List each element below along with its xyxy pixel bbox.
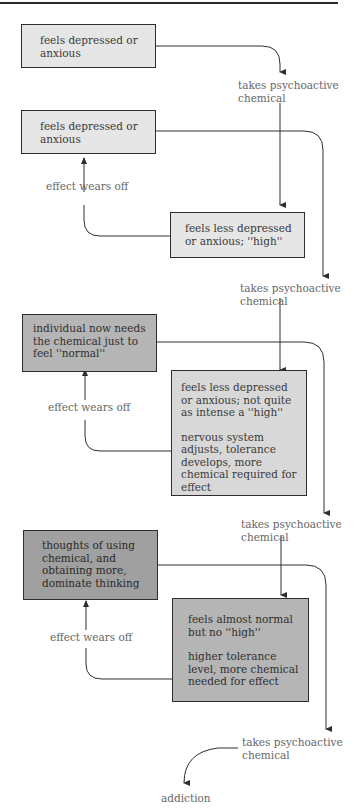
box-text-line: feels less depressed — [181, 381, 306, 394]
label-line: takes psychoactive — [242, 736, 343, 749]
box-text-line: chemical required for — [181, 468, 306, 481]
box-text-line: adjusts, tolerance — [181, 443, 306, 456]
label-takes-chemical-1: takes psychoactive chemical — [238, 79, 339, 104]
label-effect-wears-off-3: effect wears off — [50, 631, 132, 644]
box-almost-normal: feels almost normal but no ''high'' high… — [172, 598, 309, 702]
box-thoughts-dominate: thoughts of using chemical, and obtainin… — [23, 530, 158, 600]
box-text-line: obtaining more, — [42, 564, 157, 577]
box-feels-depressed-1: feels depressed or anxious — [21, 24, 156, 68]
box-text-line: nervous system — [181, 431, 306, 444]
box-text-line: feels almost normal — [188, 613, 308, 626]
label-effect-wears-off-2: effect wears off — [48, 401, 130, 414]
box-text-line: feels depressed or — [40, 120, 155, 133]
box-text-line: the chemical just to — [33, 335, 156, 348]
box-text-line: higher tolerance — [188, 650, 308, 663]
box-text-line: feels depressed or — [40, 34, 155, 47]
box-text-line: thoughts of using — [42, 539, 157, 552]
box-text-line: level, more chemical — [188, 663, 308, 676]
label-line: takes psychoactive — [240, 282, 341, 295]
box-text-line: effect — [181, 481, 306, 494]
label-line: chemical — [242, 749, 343, 762]
box-text-line: chemical, and — [42, 552, 157, 565]
box-text-line: feels less depressed — [185, 222, 304, 235]
label-effect-wears-off-1: effect wears off — [46, 180, 128, 193]
label-line: chemical — [238, 92, 339, 105]
label-line: chemical — [240, 295, 341, 308]
box-text-line: or anxious; ''high'' — [185, 235, 304, 248]
box-text-line: develops, more — [181, 456, 306, 469]
box-text-line: feel ''normal'' — [33, 347, 156, 360]
box-text-line: anxious — [40, 47, 155, 60]
box-feels-less-depressed-high: feels less depressed or anxious; ''high'… — [170, 212, 305, 258]
label-takes-chemical-3: takes psychoactive chemical — [241, 518, 342, 543]
box-text-line: anxious — [40, 133, 155, 146]
box-text-line: individual now needs — [33, 322, 156, 335]
box-needs-chemical-normal: individual now needs the chemical just t… — [22, 314, 157, 372]
label-takes-chemical-2: takes psychoactive chemical — [240, 282, 341, 307]
label-line: chemical — [241, 531, 342, 544]
box-text-line: or anxious; not quite — [181, 394, 306, 407]
box-text-line: but no ''high'' — [188, 626, 308, 639]
label-line: takes psychoactive — [238, 79, 339, 92]
box-feels-depressed-2: feels depressed or anxious — [21, 110, 156, 154]
label-takes-chemical-4: takes psychoactive chemical — [242, 736, 343, 761]
box-text-line: dominate thinking — [42, 577, 157, 590]
label-line: takes psychoactive — [241, 518, 342, 531]
label-addiction: addiction — [161, 792, 211, 805]
box-text-line: needed for effect — [188, 675, 308, 688]
box-tolerance-develops: feels less depressed or anxious; not qui… — [171, 370, 307, 496]
box-text-line: as intense a ''high'' — [181, 406, 306, 419]
